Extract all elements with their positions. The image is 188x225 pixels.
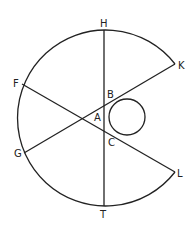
label-C: C xyxy=(108,137,115,148)
label-L: L xyxy=(177,168,183,179)
segment-FL xyxy=(22,84,175,172)
label-K: K xyxy=(178,60,185,71)
segment-GK xyxy=(24,64,175,153)
label-G: G xyxy=(14,148,22,159)
label-T: T xyxy=(99,209,107,220)
geometry-diagram: H K F B A C G L T xyxy=(0,0,188,225)
label-B: B xyxy=(107,89,114,100)
label-F: F xyxy=(13,78,19,89)
label-A: A xyxy=(94,112,101,123)
label-H: H xyxy=(100,18,108,29)
small-circle xyxy=(109,99,145,135)
diagram-svg: H K F B A C G L T xyxy=(0,0,188,225)
